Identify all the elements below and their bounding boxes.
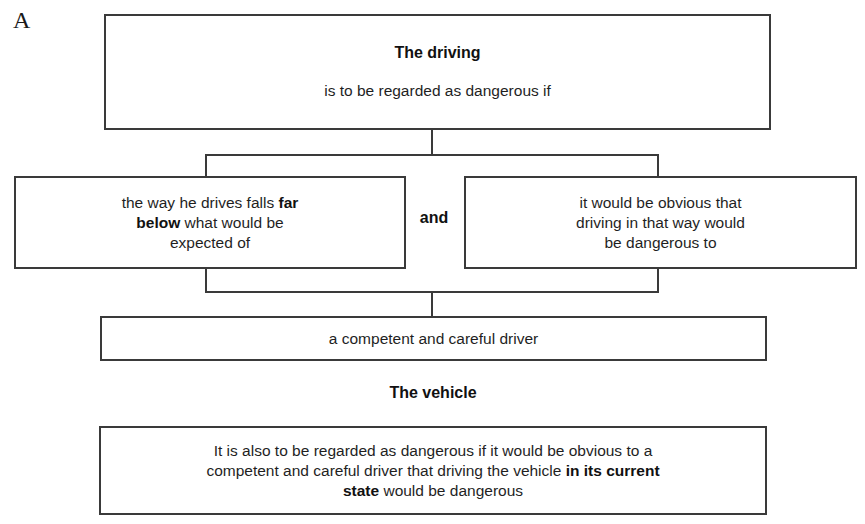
competent-driver-text: a competent and careful driver xyxy=(329,329,538,349)
panel-label: A xyxy=(13,7,30,34)
left-box-bold: far xyxy=(278,194,298,211)
left-box-text: the way he drives falls xyxy=(122,194,279,211)
far-below-condition-box: the way he drives falls far below what w… xyxy=(14,176,406,269)
connector-left-bottom-vertical xyxy=(205,268,207,292)
driving-definition-box: The driving is to be regarded as dangero… xyxy=(104,14,771,130)
connector-right-top-vertical xyxy=(657,154,659,177)
left-box-line-3: expected of xyxy=(170,233,250,253)
left-box-line-2: below what would be xyxy=(136,213,283,233)
competent-driver-box: a competent and careful driver xyxy=(100,316,767,361)
driving-subtitle: is to be regarded as dangerous if xyxy=(324,81,551,101)
vehicle-heading: The vehicle xyxy=(333,384,533,402)
vehicle-condition-box: It is also to be regarded as dangerous i… xyxy=(99,426,767,515)
vehicle-box-bold: in its current xyxy=(566,462,660,479)
left-box-text: what would be xyxy=(180,214,283,231)
and-label: and xyxy=(412,209,456,227)
vehicle-box-line-2: competent and careful driver that drivin… xyxy=(206,461,659,481)
left-box-bold: below xyxy=(136,214,180,231)
vehicle-box-text: would be dangerous xyxy=(379,482,523,499)
right-box-line-1: it would be obvious that xyxy=(580,193,742,213)
left-box-line-1: the way he drives falls far xyxy=(122,193,299,213)
right-box-line-2: driving in that way would xyxy=(576,213,745,233)
right-box-line-3: be dangerous to xyxy=(604,233,716,253)
vehicle-box-bold: state xyxy=(343,482,379,499)
vehicle-box-text: competent and careful driver that drivin… xyxy=(206,462,565,479)
connector-right-bottom-vertical xyxy=(657,268,659,292)
connector-left-top-vertical xyxy=(205,154,207,177)
obvious-danger-condition-box: it would be obvious that driving in that… xyxy=(464,176,857,269)
connector-top-horizontal xyxy=(205,154,659,156)
vehicle-box-line-3: state would be dangerous xyxy=(343,481,523,501)
connector-top-vertical xyxy=(431,129,433,155)
vehicle-box-line-1: It is also to be regarded as dangerous i… xyxy=(214,441,653,461)
driving-title: The driving xyxy=(394,43,480,63)
connector-bottom-vertical xyxy=(431,291,433,317)
